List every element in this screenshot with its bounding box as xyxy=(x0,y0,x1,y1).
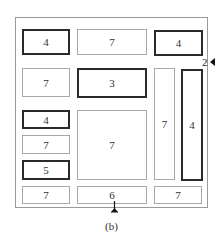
block-big7: 7 xyxy=(77,110,147,180)
block-b1: 7 xyxy=(22,186,70,204)
block-label: 4 xyxy=(189,119,195,131)
block-label: 7 xyxy=(109,36,115,48)
block-label: 5 xyxy=(43,164,49,176)
block-r1c2: 7 xyxy=(77,29,147,55)
block-label: 7 xyxy=(162,118,168,130)
side-label: 2 xyxy=(202,56,208,68)
arrow-left-icon xyxy=(210,58,215,66)
anchor-marker-icon xyxy=(110,201,119,213)
block-label: 7 xyxy=(43,77,49,89)
block-r1c1: 4 xyxy=(22,29,70,55)
block-label: 4 xyxy=(43,36,49,48)
block-label: 3 xyxy=(109,77,115,89)
block-label: 7 xyxy=(43,139,49,151)
block-tall4: 4 xyxy=(181,69,203,181)
block-label: 7 xyxy=(109,139,115,151)
block-label: 7 xyxy=(43,189,49,201)
block-label: 4 xyxy=(43,114,49,126)
block-r2c1: 7 xyxy=(22,68,70,97)
block-tall7: 7 xyxy=(154,68,175,180)
block-r5c1: 5 xyxy=(22,160,70,180)
block-r1c3: 4 xyxy=(154,30,203,56)
block-r3c1: 4 xyxy=(22,110,70,129)
block-label: 4 xyxy=(176,37,182,49)
block-r4c1: 7 xyxy=(22,135,70,154)
block-label: 6 xyxy=(109,189,115,201)
block-r2c2: 3 xyxy=(77,68,147,98)
block-label: 7 xyxy=(175,189,181,201)
figure-caption: (b) xyxy=(0,220,223,232)
block-b3: 7 xyxy=(154,186,202,204)
